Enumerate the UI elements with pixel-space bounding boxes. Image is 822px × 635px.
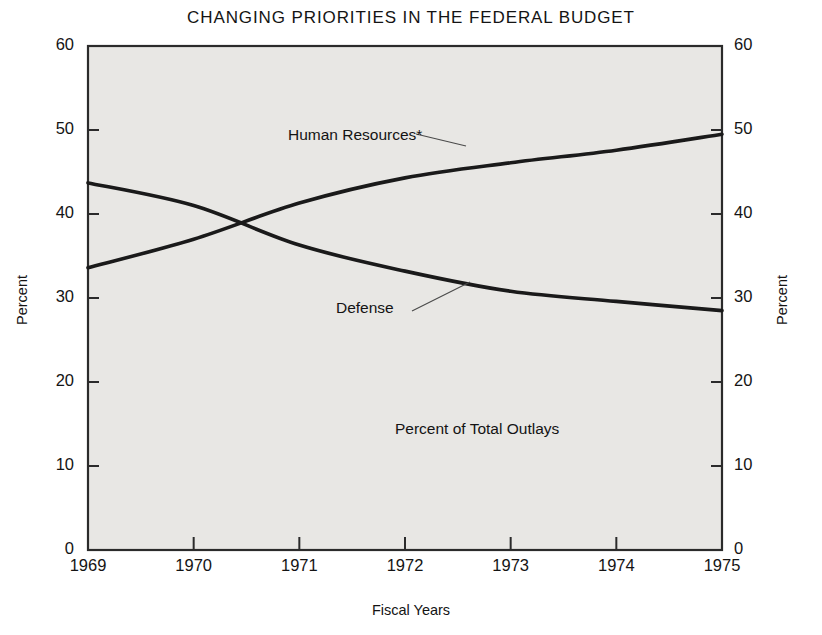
- x-tick-label: 1972: [370, 556, 440, 575]
- y-axis-title-right: Percent: [774, 275, 790, 325]
- x-tick-label: 1974: [581, 556, 651, 575]
- y-tick-label-right: 60: [734, 35, 774, 54]
- y-tick-label-left: 40: [34, 203, 74, 222]
- x-tick-label: 1969: [53, 556, 123, 575]
- y-tick-label-right: 20: [734, 371, 774, 390]
- y-tick-label-right: 10: [734, 455, 774, 474]
- outlays-note: Percent of Total Outlays: [395, 420, 559, 438]
- y-axis-title-left: Percent: [14, 275, 30, 325]
- x-tick-label: 1970: [159, 556, 229, 575]
- y-tick-label-right: 50: [734, 119, 774, 138]
- y-tick-label-left: 10: [34, 455, 74, 474]
- x-tick-label: 1973: [476, 556, 546, 575]
- series-label-human-resources: Human Resources*: [288, 126, 422, 144]
- y-tick-label-left: 30: [34, 287, 74, 306]
- y-tick-label-left: 20: [34, 371, 74, 390]
- y-tick-label-left: 50: [34, 119, 74, 138]
- x-tick-label: 1971: [264, 556, 334, 575]
- y-tick-label-right: 30: [734, 287, 774, 306]
- series-label-defense: Defense: [336, 299, 394, 317]
- plot-background: [88, 46, 722, 550]
- y-tick-label-right: 40: [734, 203, 774, 222]
- chart-figure: CHANGING PRIORITIES IN THE FEDERAL BUDGE…: [0, 0, 822, 635]
- y-tick-label-left: 60: [34, 35, 74, 54]
- x-tick-label: 1975: [687, 556, 757, 575]
- x-axis-title: Fiscal Years: [0, 602, 822, 618]
- plot-canvas: [0, 0, 822, 635]
